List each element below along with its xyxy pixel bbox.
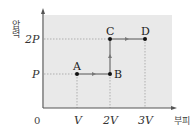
pv-diagram: A B C D P 2P V 2V 3V 0 부피 압력 (0, 0, 192, 130)
tick-v: V (74, 114, 83, 127)
label-d: D (141, 25, 150, 38)
y-axis-arrow-icon (41, 8, 45, 14)
tick-2p: 2P (24, 33, 40, 46)
x-axis-label: 부피 (174, 116, 190, 126)
origin-label: 0 (34, 115, 40, 126)
point-b (108, 72, 112, 76)
x-axis-arrow-icon (171, 106, 177, 110)
tick-3v: 3V (138, 114, 154, 127)
label-c: C (106, 25, 114, 38)
label-a: A (72, 60, 82, 73)
label-b: B (114, 68, 122, 81)
y-axis-label: 압력 (10, 19, 20, 39)
tick-p: P (31, 68, 40, 81)
tick-2v: 2V (102, 114, 119, 127)
